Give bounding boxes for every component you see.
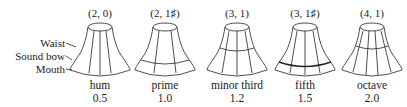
- bell-shape-icon: [272, 20, 338, 78]
- frequency-ratio: 0.5: [65, 92, 135, 104]
- bell-shape-icon: [204, 20, 270, 78]
- bell-octave: (4, 1) octave 2.0: [337, 0, 407, 107]
- bell-shape-icon: [67, 20, 133, 78]
- frequency-ratio: 1.5: [270, 92, 340, 104]
- frequency-ratio: 1.0: [130, 92, 200, 104]
- mode-label: (2, 0): [65, 7, 135, 19]
- frequency-ratio: 2.0: [337, 92, 407, 104]
- mode-label: (3, 1): [202, 7, 272, 19]
- mode-label: (2, 1♯): [130, 7, 200, 19]
- interval-name: octave: [327, 79, 407, 91]
- bell-shape-icon: [339, 20, 405, 78]
- bell-prime: (2, 1♯) prime 1.0: [130, 0, 200, 107]
- mode-label: (4, 1): [337, 7, 407, 19]
- frequency-ratio: 1.2: [202, 92, 272, 104]
- bell-shape-icon: [132, 20, 198, 78]
- mode-label: (3, 1♯): [270, 7, 340, 19]
